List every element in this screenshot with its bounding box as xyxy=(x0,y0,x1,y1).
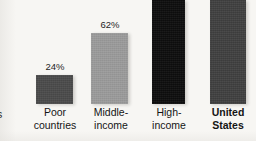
category-label-poor-countries: Poor countries xyxy=(28,106,82,132)
category-label-united-states: United States xyxy=(201,106,255,132)
bar-value-label-middle-income: 62% xyxy=(87,19,133,30)
bar-united-states xyxy=(210,0,246,104)
category-label-middle-income: Middle- income xyxy=(84,106,138,132)
category-label-line-1: High- xyxy=(142,106,196,119)
category-label-line-1: Middle- xyxy=(84,106,138,119)
bar-high-income xyxy=(152,0,185,104)
category-label-line-2: States xyxy=(201,119,255,132)
category-axis-labels: Poor countries Middle- income High- inco… xyxy=(0,106,256,141)
bar-middle-income xyxy=(91,33,128,104)
bar-chart: s 24% 62% Poor countries Middle- income … xyxy=(0,0,256,141)
plot-area: 24% 62% xyxy=(0,0,256,104)
category-label-line-1: United xyxy=(201,106,255,119)
bar-poor-countries xyxy=(36,75,73,104)
category-label-line-2: countries xyxy=(28,119,82,132)
bar-value-label-poor-countries: 24% xyxy=(32,61,78,72)
category-label-line-1: Poor xyxy=(28,106,82,119)
category-label-high-income: High- income xyxy=(142,106,196,132)
category-label-line-2: income xyxy=(142,119,196,132)
category-label-line-2: income xyxy=(84,119,138,132)
